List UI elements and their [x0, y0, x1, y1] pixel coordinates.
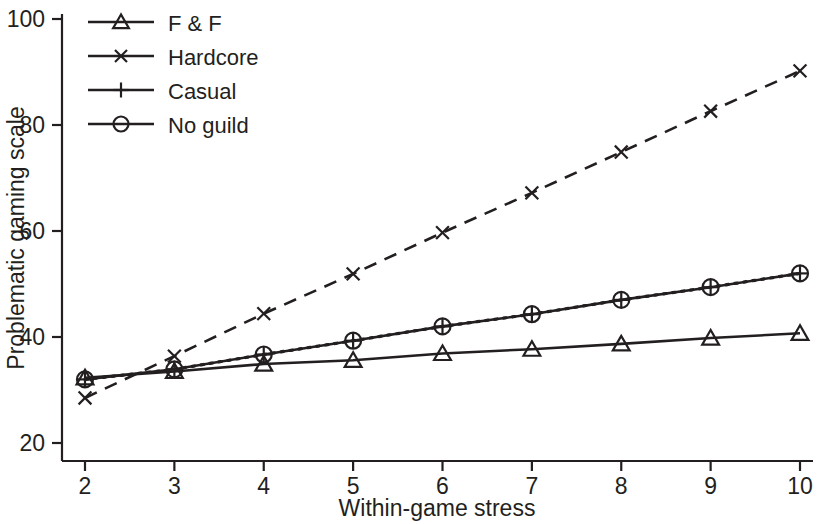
- data-point-cross: [347, 268, 360, 281]
- series-line: [85, 333, 800, 378]
- series-line: [85, 273, 800, 379]
- data-point-cross: [704, 105, 717, 118]
- x-tick-label: 3: [168, 473, 181, 499]
- data-point-cross: [436, 226, 449, 239]
- data-point-cross: [257, 307, 270, 320]
- legend-item-no-guild[interactable]: No guild: [88, 113, 249, 138]
- y-axis-ticks: [52, 19, 62, 443]
- x-tick-label: 8: [615, 473, 628, 499]
- legend-label: F & F: [168, 11, 222, 36]
- x-tick-label: 4: [257, 473, 270, 499]
- data-point-cross: [79, 392, 92, 405]
- line-chart-canvas: 20406080100 2345678910 Problematic gamin…: [0, 0, 819, 524]
- legend-item-hardcore[interactable]: Hardcore: [88, 45, 258, 70]
- legend-label: Hardcore: [168, 45, 258, 70]
- legend-label: No guild: [168, 113, 249, 138]
- data-point-cross: [525, 186, 538, 199]
- x-tick-label: 10: [787, 473, 813, 499]
- y-axis-title: Problematic gaming scale: [3, 106, 29, 369]
- y-tick-label: 20: [19, 430, 45, 456]
- legend-item-f-f[interactable]: F & F: [88, 11, 222, 36]
- x-tick-label: 2: [79, 473, 92, 499]
- data-point-plus: [114, 83, 129, 98]
- chart-legend: F & FHardcoreCasualNo guild: [88, 11, 258, 138]
- y-tick-label: 100: [7, 6, 45, 32]
- x-axis-title: Within-game stress: [339, 495, 536, 521]
- data-point-cross: [794, 65, 807, 78]
- chart-figure: 20406080100 2345678910 Problematic gamin…: [0, 0, 819, 524]
- x-axis-ticks: [85, 461, 800, 471]
- x-tick-label: 9: [704, 473, 717, 499]
- legend-item-casual[interactable]: Casual: [88, 79, 236, 104]
- data-point-cross: [615, 146, 628, 159]
- legend-label: Casual: [168, 79, 236, 104]
- series-no-guild: [77, 265, 808, 387]
